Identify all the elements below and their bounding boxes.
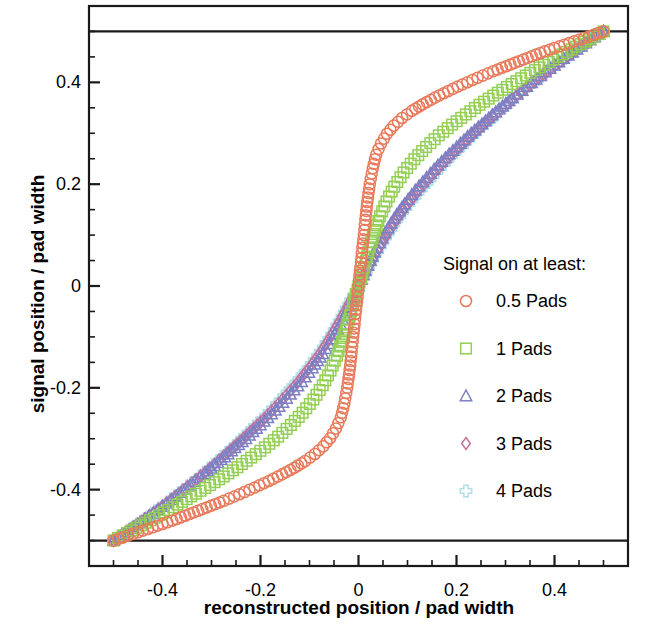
legend-item-3-pads: 3 Pads [496, 433, 552, 454]
marker-cross [460, 485, 471, 496]
legend-item-2-pads: 2 Pads [496, 386, 552, 407]
x-tick-label: 0.4 [542, 580, 567, 601]
legend-item-4-pads: 4 Pads [496, 481, 552, 502]
x-tick-label: -0.2 [245, 580, 276, 601]
legend-markers [460, 295, 471, 496]
legend-item-1-pads: 1 Pads [496, 338, 552, 359]
y-tick-label: 0 [37, 276, 81, 297]
y-tick-label: 0.2 [37, 174, 81, 195]
y-tick-label: 0.4 [37, 72, 81, 93]
series-0-5-pads [108, 26, 609, 546]
legend-item-0-5-pads: 0.5 Pads [496, 291, 567, 312]
x-tick-label: 0.2 [444, 580, 469, 601]
x-tick-label: -0.4 [147, 580, 178, 601]
marker-square [417, 146, 428, 157]
marker-circle [460, 295, 471, 306]
marker-diamond [462, 438, 471, 450]
chart-figure: signal position / pad width reconstructe… [0, 0, 669, 637]
plot-area [0, 0, 669, 637]
marker-square [290, 416, 301, 427]
x-tick-label: 0 [353, 580, 363, 601]
y-tick-label: -0.2 [37, 377, 81, 398]
legend-title: Signal on at least: [443, 254, 586, 275]
marker-triangle [460, 390, 471, 401]
marker-square [461, 343, 472, 354]
y-tick-label: -0.4 [37, 479, 81, 500]
